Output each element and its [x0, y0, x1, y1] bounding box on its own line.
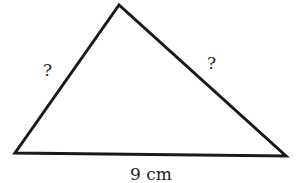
- base-label: 9 cm: [130, 164, 172, 183]
- left-side-label: ?: [43, 60, 52, 80]
- triangle-diagram: ? ? 9 cm: [0, 0, 304, 183]
- triangle: [15, 5, 286, 156]
- right-side-label: ?: [207, 53, 216, 73]
